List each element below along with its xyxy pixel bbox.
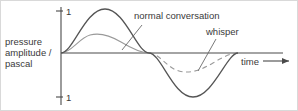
whisper-leader-line — [198, 39, 216, 71]
x-axis-label: time — [241, 56, 259, 67]
y-axis-label-line-3: pascal — [5, 58, 32, 69]
y-axis-label-line-1: pressure — [5, 36, 42, 47]
normal-conversation-leader-line — [122, 25, 142, 50]
y-tick-label-top: 1 — [66, 6, 71, 17]
sound-wave-chart-figure: 1 1 pressure amplitude / pascal time nor… — [0, 0, 298, 111]
annotation-normal-conversation: normal conversation — [134, 10, 220, 21]
y-axis-label-line-2: amplitude / — [5, 47, 52, 58]
y-tick-label-bottom: 1 — [66, 92, 71, 103]
chart-plot-area: 1 1 pressure amplitude / pascal time nor… — [1, 1, 298, 111]
whisper-curve-positive — [61, 34, 149, 53]
time-axis-arrow-icon — [263, 58, 289, 64]
annotation-whisper: whisper — [205, 26, 239, 37]
whisper-curve-negative — [149, 53, 238, 72]
